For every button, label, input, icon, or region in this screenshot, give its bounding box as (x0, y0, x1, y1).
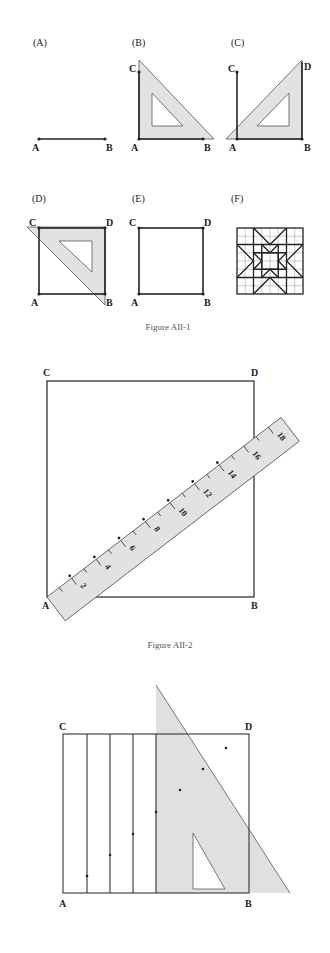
ruler: 2 4 6 8 10 12 14 16 18 (44, 414, 299, 621)
label-c: C (228, 63, 235, 74)
label-d: D (245, 721, 252, 732)
point-c (137, 70, 140, 73)
label-a: A (59, 898, 67, 909)
label-d: D (251, 367, 258, 378)
figure-3: C D A B (59, 685, 290, 909)
figure-caption: Figure AII-2 (147, 640, 192, 650)
label-a: A (131, 142, 139, 153)
label-c: C (29, 217, 36, 228)
panel-label-e: (E) (132, 193, 145, 205)
label-a: A (229, 142, 237, 153)
set-square-triangle (139, 60, 214, 139)
panel-label-d: (D) (32, 193, 46, 205)
label-c: C (59, 721, 66, 732)
point-c (137, 226, 140, 229)
figure-aii-2: C D A B (42, 367, 299, 650)
point-a (37, 137, 40, 140)
label-a: A (131, 297, 139, 308)
diagram-canvas: (A) A B (B) C A B (C) (0, 0, 330, 953)
label-a: A (32, 142, 40, 153)
point-b (300, 137, 303, 140)
figure-aii-1: (A) A B (B) C A B (C) (27, 37, 311, 332)
label-b: B (106, 297, 113, 308)
point-c (37, 226, 40, 229)
label-d: D (204, 217, 211, 228)
point-b (103, 137, 106, 140)
point-a (37, 292, 40, 295)
panel-label-a: (A) (33, 37, 47, 49)
label-d: D (106, 217, 113, 228)
label-c: C (129, 63, 136, 74)
label-a: A (42, 600, 50, 611)
division-lines (87, 734, 156, 893)
panel-a: (A) A B (32, 37, 113, 153)
label-b: B (251, 600, 258, 611)
label-b: B (106, 142, 113, 153)
point-a (137, 137, 140, 140)
point-c (235, 70, 238, 73)
panel-label-f: (F) (231, 193, 243, 205)
quilt-grid (237, 228, 303, 294)
panel-b: (B) C A B (129, 37, 214, 153)
label-c: C (129, 217, 136, 228)
label-b: B (245, 898, 252, 909)
label-d: D (304, 61, 311, 72)
point-a (137, 292, 140, 295)
label-b: B (304, 142, 311, 153)
panel-f: (F) (231, 193, 303, 294)
label-b: B (204, 142, 211, 153)
ruler-body (47, 417, 299, 620)
point-b (103, 292, 106, 295)
point-b (201, 137, 204, 140)
panel-d: (D) C D A B (27, 193, 113, 308)
point-b (201, 292, 204, 295)
square-abdc (139, 228, 203, 294)
panel-e: (E) C D A B (129, 193, 211, 308)
point-a (235, 137, 238, 140)
figure-caption: Figure AII-1 (145, 322, 190, 332)
label-b: B (204, 297, 211, 308)
label-a: A (31, 297, 39, 308)
panel-label-c: (C) (231, 37, 244, 49)
label-c: C (43, 367, 50, 378)
panel-label-b: (B) (132, 37, 145, 49)
panel-c: (C) C D A B (226, 37, 311, 153)
